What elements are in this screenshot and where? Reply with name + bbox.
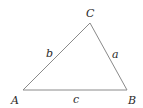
side-label-b: b [46, 47, 53, 60]
vertex-label-c: C [86, 7, 95, 20]
triangle-diagram: C A B b a c [0, 0, 143, 108]
side-b [23, 23, 90, 90]
vertex-label-b: B [127, 94, 136, 107]
side-a [90, 23, 127, 90]
side-label-c: c [73, 93, 79, 106]
side-label-a: a [112, 48, 119, 61]
vertex-label-a: A [10, 94, 19, 107]
